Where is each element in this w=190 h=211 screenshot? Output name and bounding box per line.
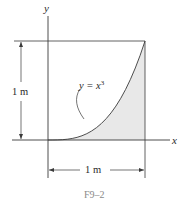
equation-leader-line <box>77 89 84 119</box>
figure-caption: F9–2 <box>84 189 105 200</box>
vertical-dimension-label: 1 m <box>12 86 28 97</box>
x-axis-label: x <box>171 134 177 146</box>
diagram-canvas: y x 1 m 1 m y = x3 F9–2 <box>0 0 190 211</box>
y-axis-label: y <box>43 2 49 14</box>
curve-equation-exponent: 3 <box>101 79 105 87</box>
curve-equation-base: y = x <box>78 80 101 91</box>
curve-equation-label: y = x3 <box>78 79 105 91</box>
horizontal-dimension-label: 1 m <box>85 164 101 175</box>
